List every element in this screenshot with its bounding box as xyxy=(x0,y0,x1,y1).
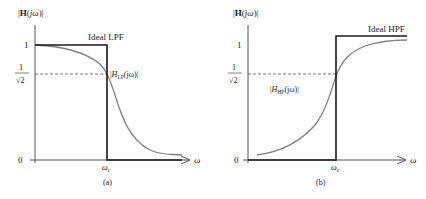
y-axis-label: |H(jω)| xyxy=(18,8,44,18)
hhp-curve-label: |HHP(jω)| xyxy=(270,85,299,95)
ideal-hpf-label: Ideal HPF xyxy=(368,24,405,34)
ideal-lpf-line xyxy=(35,45,182,160)
y-axis-label: |H(jω)| xyxy=(233,8,259,18)
tick-zero: 0 xyxy=(18,155,23,165)
tick-sqrt-denominator: √2 xyxy=(229,76,237,85)
tick-sqrt-denominator: √2 xyxy=(16,76,24,85)
filter-response-figure: |H(jω)| 1 1 √2 0 ωc ω Ideal LPF |HLP(jω)… xyxy=(0,0,426,199)
caption-b: (b) xyxy=(316,178,326,187)
ideal-lpf-label: Ideal LPF xyxy=(88,32,124,42)
panel-a-lowpass: |H(jω)| 1 1 √2 0 ωc ω Ideal LPF |HLP(jω)… xyxy=(15,8,200,187)
x-axis-label: ω xyxy=(410,155,416,165)
ideal-hpf-line xyxy=(248,36,407,160)
caption-a: (a) xyxy=(103,178,112,187)
real-hpf-curve xyxy=(257,40,407,155)
tick-one: 1 xyxy=(237,40,242,50)
tick-omega-c: ωc xyxy=(102,163,111,173)
real-lpf-curve xyxy=(35,45,182,155)
tick-zero: 0 xyxy=(234,155,239,165)
hlp-curve-label: |HLP(jω)| xyxy=(110,70,138,80)
tick-omega-c: ωc xyxy=(331,163,340,173)
tick-sqrt-numerator: 1 xyxy=(19,63,23,72)
panel-b-highpass: |H(jω)| 1 1 √2 0 ωc ω Ideal HPF |HHP(jω)… xyxy=(228,8,416,187)
tick-sqrt-numerator: 1 xyxy=(232,63,236,72)
tick-one: 1 xyxy=(24,40,29,50)
x-axis-label: ω xyxy=(194,155,200,165)
